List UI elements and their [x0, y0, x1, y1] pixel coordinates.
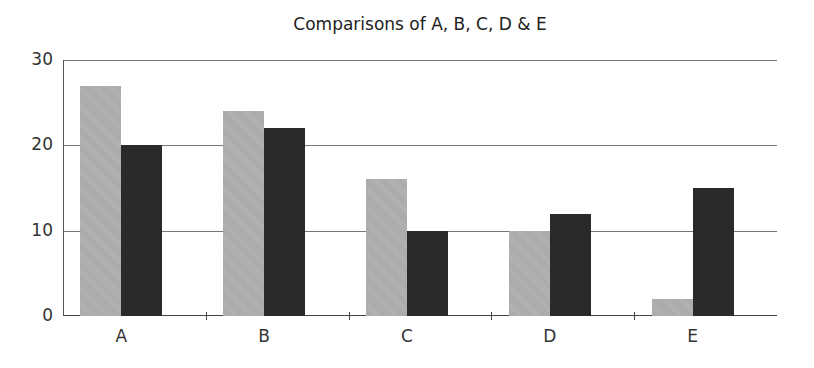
- x-tick: [634, 312, 635, 320]
- bar-D-1: [509, 231, 550, 316]
- bar-A-2: [121, 145, 162, 316]
- x-label-E: E: [673, 326, 713, 346]
- x-label-B: B: [244, 326, 284, 346]
- x-tick: [349, 312, 350, 320]
- x-tick: [491, 312, 492, 320]
- bar-E-2: [693, 188, 734, 316]
- gridline-30: [63, 60, 777, 61]
- bar-A-1: [80, 86, 121, 316]
- y-tick-20: 20: [21, 134, 53, 154]
- y-tick-0: 0: [21, 305, 53, 325]
- bar-C-1: [366, 179, 407, 316]
- x-label-C: C: [387, 326, 427, 346]
- bar-C-2: [407, 231, 448, 316]
- x-label-D: D: [530, 326, 570, 346]
- bar-B-1: [223, 111, 264, 316]
- x-label-A: A: [101, 326, 141, 346]
- x-tick: [206, 312, 207, 320]
- y-tick-30: 30: [21, 49, 53, 69]
- bar-B-2: [264, 128, 305, 316]
- y-tick-10: 10: [21, 220, 53, 240]
- gridline-20: [63, 145, 777, 146]
- bar-E-1: [652, 299, 693, 316]
- plot-area: 30 20 10 0 ABCDE: [63, 60, 777, 316]
- chart-title: Comparisons of A, B, C, D & E: [0, 14, 814, 34]
- y-axis: [63, 60, 64, 316]
- bar-D-2: [550, 214, 591, 316]
